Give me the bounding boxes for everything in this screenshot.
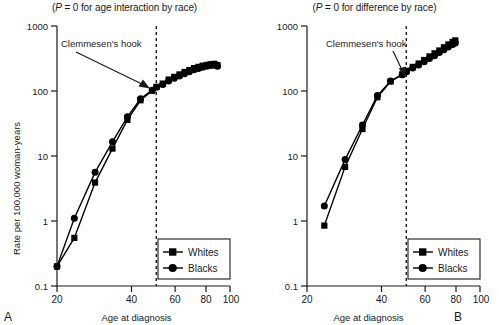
panel-a-line-blacks — [57, 65, 217, 266]
panel-a-datapoint-blacks — [54, 263, 61, 270]
panel-a-line-whites — [57, 64, 217, 267]
panel-a-ylabel-1: 1 — [43, 216, 48, 227]
panel-a-ylabel-100: 100 — [32, 86, 48, 97]
panel-b-annotation-text: Clemmesen's hook — [326, 38, 407, 49]
panel-b-datapoint-blacks — [321, 203, 328, 210]
panel-b-datapoint-blacks — [387, 78, 394, 85]
panel-b-letter: B — [454, 310, 462, 324]
panel-b-datapoint-blacks — [452, 39, 459, 46]
panel-a-xlabel-20: 20 — [51, 294, 63, 305]
panel-b-xlabel-80: 80 — [450, 294, 462, 305]
panel-a-xlabel-80: 80 — [200, 294, 212, 305]
panel-a-datapoint-blacks — [124, 113, 131, 120]
panel-a-datapoint-blacks — [159, 81, 166, 88]
panel-a: (P = 0 for age interaction by race) — [0, 0, 249, 325]
panel-b-ylabel-0.1: 0.1 — [285, 281, 298, 292]
panel-b-xlabel-60: 60 — [420, 294, 432, 305]
panel-a-x-axis-title: Age at diagnosis — [12, 312, 261, 323]
panel-a-datapoint-blacks — [153, 84, 160, 91]
panel-a-y-axis-title: Rate per 100,000 woman-years — [11, 122, 22, 255]
panel-a-datapoint-blacks — [71, 215, 78, 222]
panel-a-datapoint-whites — [71, 235, 77, 241]
panel-b-legend-marker-whites — [419, 248, 426, 255]
panel-a-legend-label-blacks: Blacks — [188, 263, 217, 274]
panel-b-legend: Whites Blacks — [408, 239, 480, 279]
panel-b-xtick-labels: 20 40 60 80 100 — [301, 294, 489, 305]
panel-b-legend-label-whites: Whites — [438, 247, 469, 258]
panel-b-xlabel-20: 20 — [301, 294, 313, 305]
panel-a-legend: Whites Blacks — [158, 239, 230, 279]
panel-b-markers-blacks — [321, 39, 459, 209]
panel-a-datapoint-blacks — [137, 95, 144, 102]
panel-a-legend-label-whites: Whites — [188, 247, 219, 258]
panel-a-legend-marker-blacks — [169, 264, 177, 272]
panel-a-ylabel-1000: 1000 — [27, 21, 48, 32]
panel-a-annotation-arrow — [76, 52, 150, 89]
panel-a-ytick-labels: 1000 100 10 1 0.1 — [27, 21, 48, 292]
panel-a-datapoint-blacks — [214, 63, 221, 70]
panel-b-xlabel-40: 40 — [376, 294, 388, 305]
panel-a-datapoint-blacks — [92, 169, 99, 176]
panel-b-series-blacks — [321, 39, 459, 209]
panel-b-markers-whites — [321, 37, 458, 228]
panel-a-xlabel-60: 60 — [170, 294, 182, 305]
panel-b-datapoint-blacks — [342, 156, 349, 163]
panel-a-ylabel-10: 10 — [37, 151, 48, 162]
panel-a-xlabel-100: 100 — [223, 294, 240, 305]
panel-a-ylabel-0.1: 0.1 — [35, 281, 48, 292]
panel-b-datapoint-blacks — [374, 92, 381, 99]
panel-b-ytick-labels: 1000 100 10 1 0.1 — [277, 21, 298, 292]
panel-b: (P = 0 for difference by race) 1000 100 — [250, 0, 499, 325]
panel-b-datapoint-whites — [321, 222, 327, 228]
panel-b-datapoint-blacks — [359, 121, 366, 128]
panel-a-letter: A — [4, 310, 12, 324]
panel-a-markers-whites — [54, 61, 221, 270]
panel-b-legend-label-blacks: Blacks — [438, 263, 467, 274]
panel-a-datapoint-whites — [92, 179, 98, 185]
panel-a-xlabel-40: 40 — [126, 294, 138, 305]
panel-b-ylabel-1000: 1000 — [277, 21, 298, 32]
panel-b-xlabel-100: 100 — [473, 294, 490, 305]
panel-b-line-whites — [324, 40, 455, 225]
panel-a-legend-marker-whites — [169, 248, 176, 255]
panel-a-datapoint-blacks — [109, 138, 116, 145]
panel-a-annotation-text: Clemmesen's hook — [61, 38, 142, 49]
panel-b-line-blacks — [324, 43, 455, 206]
panel-a-xtick-labels: 20 40 60 80 100 — [51, 294, 239, 305]
panel-b-ylabel-10: 10 — [287, 151, 298, 162]
panel-a-series-whites — [54, 61, 221, 270]
panel-b-series-whites — [321, 37, 458, 228]
panel-b-legend-marker-blacks — [419, 264, 427, 272]
figure-root: (P = 0 for age interaction by race) — [0, 0, 499, 325]
panel-b-ylabel-100: 100 — [282, 86, 298, 97]
panel-b-ylabel-1: 1 — [293, 216, 298, 227]
